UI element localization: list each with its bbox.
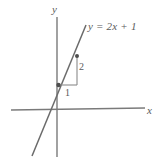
x-axis-label: x bbox=[147, 105, 152, 116]
point-on-line bbox=[75, 54, 79, 58]
coordinate-plot bbox=[0, 0, 162, 164]
y-axis-label: y bbox=[52, 4, 57, 15]
point-y-intercept bbox=[56, 83, 60, 87]
line-y-equals-2x-plus-1 bbox=[32, 25, 86, 156]
equation-label: y = 2x + 1 bbox=[88, 21, 137, 32]
x-axis bbox=[11, 108, 145, 110]
line-graph-figure: y x y = 2x + 1 1 2 bbox=[0, 0, 162, 164]
slope-rise-label: 2 bbox=[79, 62, 84, 72]
slope-run-label: 1 bbox=[65, 88, 70, 98]
